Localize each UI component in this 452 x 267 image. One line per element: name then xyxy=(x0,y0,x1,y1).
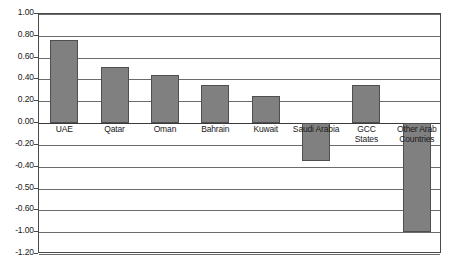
category-label: Bahrain xyxy=(190,125,240,135)
gridline xyxy=(39,167,440,168)
bar xyxy=(101,67,129,123)
category-label: Oman xyxy=(140,125,190,135)
y-axis-tick-label: -0.60 xyxy=(0,204,34,213)
y-axis-tick-label: 0.60 xyxy=(0,52,34,61)
bar xyxy=(151,75,179,123)
y-axis-tick-label: -1.20 xyxy=(0,248,34,257)
gridline xyxy=(39,232,440,233)
y-axis-tick-label: 0.00 xyxy=(0,117,34,126)
gridline xyxy=(39,36,440,37)
gridline xyxy=(39,14,440,15)
gridline xyxy=(39,189,440,190)
y-axis-tick-label: 0.20 xyxy=(0,95,34,104)
bar xyxy=(252,96,280,123)
category-label: UAE xyxy=(39,125,89,135)
category-label: Qatar xyxy=(89,125,139,135)
y-axis-tick-label: -0.50 xyxy=(0,183,34,192)
y-axis-tick-label: 0.80 xyxy=(0,30,34,39)
gridline xyxy=(39,58,440,59)
y-axis-tick-label: 0.40 xyxy=(0,73,34,82)
plot-area: UAEQatarOmanBahrainKuwaitSaudi ArabiaGCC… xyxy=(38,13,441,253)
y-axis-tick-label: -0.40 xyxy=(0,161,34,170)
y-axis-tick-label: 1.00 xyxy=(0,8,34,17)
gridline xyxy=(39,254,440,255)
gridline xyxy=(39,210,440,211)
y-axis-tick-mark xyxy=(34,253,38,254)
category-label: Other Arab Countries xyxy=(392,125,442,144)
bar xyxy=(50,40,78,123)
gridline xyxy=(39,123,440,124)
bar xyxy=(201,85,229,123)
gridline xyxy=(39,79,440,80)
bar-chart: 1.000.800.600.400.200.00-0.20-0.40-0.50-… xyxy=(0,0,452,267)
y-axis-tick-label: -1.00 xyxy=(0,226,34,235)
gridline xyxy=(39,145,440,146)
bar xyxy=(352,85,380,123)
y-axis-tick-label: -0.20 xyxy=(0,139,34,148)
category-label: GCC States xyxy=(341,125,391,144)
category-label: Kuwait xyxy=(241,125,291,135)
category-label: Saudi Arabia xyxy=(291,125,341,135)
